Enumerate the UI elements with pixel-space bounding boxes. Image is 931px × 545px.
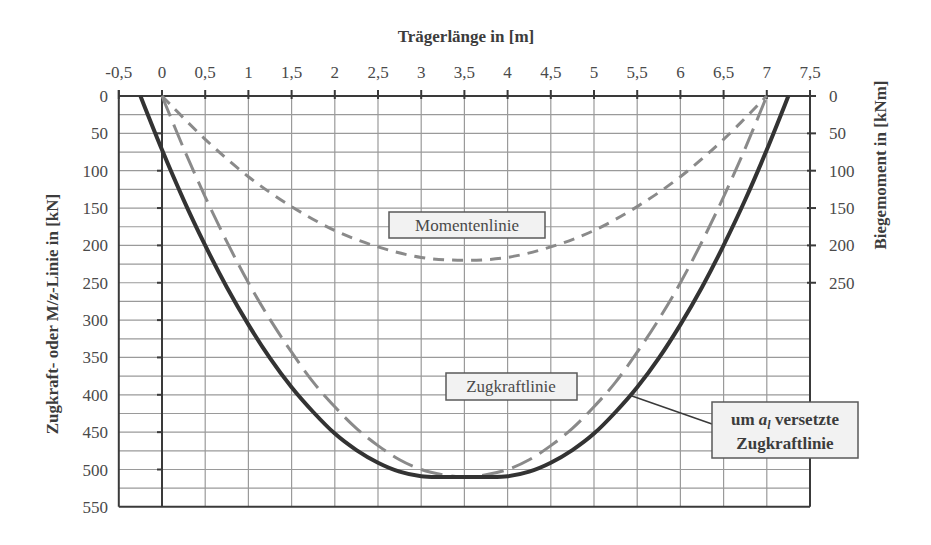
x-tick-label: 7,5	[799, 63, 820, 82]
y-left-tick-label: 350	[83, 348, 109, 367]
x-axis-tick-labels: -0,500,511,522,533,544,555,566,577,5	[105, 63, 820, 82]
x-tick-label: 2	[331, 63, 340, 82]
x-tick-label: 5	[590, 63, 599, 82]
y-left-tick-label: 450	[83, 423, 109, 442]
x-tick-label: 1,5	[281, 63, 302, 82]
x-tick-label: 6	[676, 63, 685, 82]
x-tick-label: -0,5	[105, 63, 132, 82]
y-right-tick-label: 250	[829, 274, 855, 293]
zugkraftlinie-label: Zugkraftlinie	[446, 373, 577, 400]
y-left-tick-label: 50	[91, 124, 108, 143]
y-left-tick-label: 400	[83, 386, 109, 405]
y-left-tick-label: 100	[83, 162, 109, 181]
zugkraftlinie-label-text: Zugkraftlinie	[466, 377, 556, 396]
y-left-tick-label: 300	[83, 311, 109, 330]
x-tick-label: 4,5	[540, 63, 561, 82]
x-tick-label: 2,5	[367, 63, 388, 82]
y-left-tick-label: 200	[83, 236, 109, 255]
x-tick-label: 3,5	[454, 63, 475, 82]
callout-suffix: versetzte	[771, 410, 840, 429]
y-left-axis-tick-labels: 050100150200250300350400450500550	[83, 87, 109, 517]
x-tick-label: 4	[503, 63, 512, 82]
chart: -0,500,511,522,533,544,555,566,577,5 050…	[0, 0, 931, 545]
y-right-tick-label: 50	[829, 124, 846, 143]
momentenlinie-label: Momentenlinie	[389, 212, 545, 238]
y-left-axis-title: Zugkraft- oder M/z-Linie in [kN]	[43, 194, 62, 435]
y-left-tick-label: 250	[83, 274, 109, 293]
x-tick-label: 0,5	[195, 63, 216, 82]
callout-line1: um al versetzte	[731, 410, 840, 432]
y-left-tick-label: 150	[83, 199, 109, 218]
y-right-tick-label: 0	[829, 87, 838, 106]
y-left-tick-label: 0	[100, 87, 109, 106]
x-tick-label: 3	[417, 63, 426, 82]
x-tick-label: 0	[158, 63, 167, 82]
x-tick-label: 7	[763, 63, 772, 82]
x-tick-label: 5,5	[627, 63, 648, 82]
versetzte-zugkraftlinie-callout: um al versetzte Zugkraftlinie	[632, 396, 858, 458]
y-right-axis-tick-labels: 050100150200250	[829, 87, 855, 293]
y-right-tick-label: 100	[829, 162, 855, 181]
y-right-axis-title: Biegemoment in [kNm]	[871, 80, 890, 249]
callout-line2: Zugkraftlinie	[736, 434, 834, 453]
y-right-tick-label: 200	[829, 236, 855, 255]
grid-lines	[119, 96, 810, 507]
x-tick-label: 1	[244, 63, 253, 82]
y-left-tick-label: 550	[83, 498, 109, 517]
y-left-tick-label: 500	[83, 461, 109, 480]
momentenlinie-label-text: Momentenlinie	[415, 216, 519, 235]
callout-leader-line	[632, 396, 712, 424]
x-tick-label: 6,5	[713, 63, 734, 82]
y-right-tick-label: 150	[829, 199, 855, 218]
x-axis-title: Trägerlänge in [m]	[398, 27, 535, 46]
callout-prefix: um	[731, 410, 759, 429]
